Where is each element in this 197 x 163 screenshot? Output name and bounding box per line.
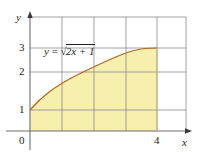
y-tick-label-3: 3 bbox=[19, 42, 25, 53]
shaded-area-under-curve bbox=[30, 48, 157, 131]
x-tick-label-4: 4 bbox=[154, 135, 160, 146]
plot-canvas bbox=[0, 0, 197, 163]
x-tick-label-0: 0 bbox=[19, 135, 25, 146]
equation-radicand: 2x + 1 bbox=[66, 44, 96, 57]
x-axis-label: x bbox=[182, 137, 187, 148]
y-tick-label-1: 1 bbox=[19, 104, 25, 115]
y-axis-label: y bbox=[16, 12, 21, 23]
equation-equals: = bbox=[49, 45, 61, 57]
y-tick-label-2: 2 bbox=[19, 66, 25, 77]
equation-annotation: y = √2x + 1 bbox=[44, 46, 95, 57]
graph-figure: 3 2 1 0 4 y x y = √2x + 1 bbox=[0, 0, 197, 163]
